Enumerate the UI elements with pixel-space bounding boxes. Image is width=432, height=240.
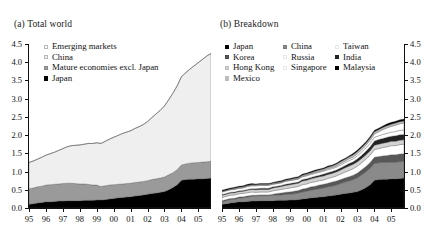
legend-swatch-icon — [225, 66, 229, 70]
y-tick-label: 0.0 — [2, 204, 22, 213]
y-tick — [25, 153, 28, 154]
y-tick — [405, 117, 408, 118]
x-tick — [29, 209, 30, 212]
legend-column: Taiwan India Malaysia — [335, 41, 375, 73]
y-tick — [25, 80, 28, 81]
x-tick — [273, 209, 274, 212]
x-tick-label: 01 — [123, 215, 139, 224]
x-tick-label: 04 — [366, 215, 382, 224]
y-tick — [25, 190, 28, 191]
legend-label: India — [343, 52, 361, 63]
legend-label: Mexico — [233, 73, 260, 84]
x-tick-label: 02 — [140, 215, 156, 224]
legend-label: China — [52, 52, 73, 63]
legend-item: China — [283, 41, 327, 52]
legend-swatch-icon — [283, 45, 287, 49]
y-tick-label: 4.0 — [410, 58, 430, 67]
y-tick — [405, 172, 408, 173]
x-tick-label: 03 — [349, 215, 365, 224]
legend-swatch-icon — [44, 45, 48, 49]
y-tick — [25, 62, 28, 63]
legend-label: Japan — [52, 73, 72, 84]
y-tick — [25, 208, 28, 209]
legend-item: Hong Kong — [225, 62, 274, 73]
legend-item: Taiwan — [335, 41, 375, 52]
x-tick — [198, 209, 199, 212]
y-tick-label: 1.5 — [2, 149, 22, 158]
y-tick-label: 2.0 — [410, 131, 430, 140]
legend-swatch-icon — [335, 66, 339, 70]
legend-swatch-icon — [225, 45, 229, 49]
legend-item: Mature economies excl. Japan — [44, 62, 159, 73]
legend-label: Russia — [291, 52, 314, 63]
y-tick — [25, 99, 28, 100]
x-tick-label: 03 — [156, 215, 172, 224]
x-tick — [97, 209, 98, 212]
x-tick — [63, 209, 64, 212]
y-tick — [405, 80, 408, 81]
legend-item: Russia — [283, 52, 327, 63]
panel-breakdown: (b) Breakdown Japan Korea Hong Kong — [216, 0, 432, 240]
y-tick — [405, 208, 408, 209]
y-tick — [405, 44, 408, 45]
legend-label: Malaysia — [343, 62, 375, 73]
y-tick-label: 2.5 — [2, 113, 22, 122]
legend-column: China Russia Singapore — [283, 41, 327, 73]
x-tick-label: 95 — [21, 215, 37, 224]
legend-label: Mature economies excl. Japan — [52, 62, 159, 73]
x-tick — [324, 209, 325, 212]
legend-swatch-icon — [283, 66, 287, 70]
x-tick — [341, 209, 342, 212]
legend-column: Japan Korea Hong Kong Mexico — [225, 41, 274, 83]
legend-swatch-icon — [44, 66, 48, 70]
legend-item: Japan — [44, 73, 159, 84]
figure-root: (a) Total world Emerging markets China M… — [0, 0, 432, 240]
x-axis-line-b — [222, 208, 405, 209]
x-tick — [391, 209, 392, 212]
legend-item: Mexico — [225, 73, 274, 84]
y-tick — [25, 44, 28, 45]
legend-label: Emerging markets — [52, 41, 117, 52]
y-tick-label: 4.0 — [2, 58, 22, 67]
x-tick — [131, 209, 132, 212]
legend-item: Emerging markets — [44, 41, 159, 52]
x-tick-label: 96 — [38, 215, 54, 224]
panel-total-world: (a) Total world Emerging markets China M… — [0, 0, 216, 240]
y-tick-label: 2.0 — [2, 131, 22, 140]
y-tick — [25, 117, 28, 118]
y-tick-label: 3.5 — [410, 76, 430, 85]
x-tick-label: 02 — [333, 215, 349, 224]
x-tick — [239, 209, 240, 212]
legend-label: Singapore — [291, 62, 327, 73]
panel-b-title: (b) Breakdown — [220, 19, 279, 29]
legend-item: China — [44, 52, 159, 63]
y-tick — [405, 62, 408, 63]
y-tick — [405, 190, 408, 191]
y-tick — [25, 172, 28, 173]
x-tick — [114, 209, 115, 212]
x-tick — [374, 209, 375, 212]
legend-swatch-icon — [283, 55, 287, 59]
x-tick-label: 98 — [265, 215, 281, 224]
legend-swatch-icon — [335, 45, 339, 49]
y-axis-line-b — [404, 44, 405, 209]
y-tick-label: 4.5 — [410, 40, 430, 49]
legend-item: Korea — [225, 52, 274, 63]
x-tick — [357, 209, 358, 212]
y-tick — [405, 153, 408, 154]
y-tick — [405, 135, 408, 136]
y-tick-label: 4.5 — [2, 40, 22, 49]
y-tick-label: 0.0 — [410, 204, 430, 213]
panel-a-title: (a) Total world — [14, 19, 72, 29]
x-tick-label: 00 — [299, 215, 315, 224]
y-tick-label: 1.0 — [2, 168, 22, 177]
y-axis-line-a — [28, 44, 29, 209]
x-tick-label: 97 — [248, 215, 264, 224]
x-tick-label: 95 — [214, 215, 230, 224]
legend-swatch-icon — [335, 55, 339, 59]
y-tick-label: 2.5 — [410, 113, 430, 122]
legend-label: Hong Kong — [233, 62, 274, 73]
x-tick — [290, 209, 291, 212]
legend-label: China — [291, 41, 312, 52]
legend-swatch-icon — [225, 55, 229, 59]
